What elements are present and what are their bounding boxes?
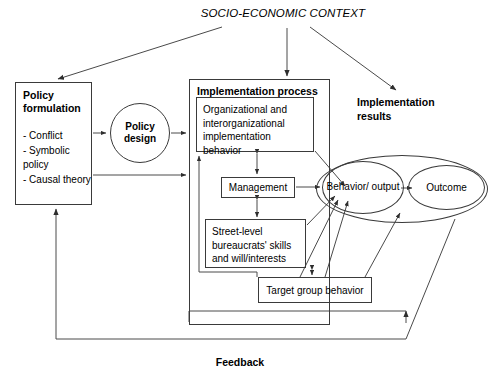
target-group-label: Target group behavior xyxy=(266,285,363,296)
target-group-behavior-box: Target group behavior xyxy=(258,277,372,303)
outcome-label: Outcome xyxy=(426,182,467,193)
behavior-output-ellipse: Behavior/ output xyxy=(322,161,404,214)
policy-formulation-item: - Causal theory xyxy=(23,173,85,188)
diagram-title: SOCIO-ECONOMIC CONTEXT xyxy=(168,6,398,20)
diagram-canvas: SOCIO-ECONOMIC CONTEXT Policy formulatio… xyxy=(0,0,491,385)
management-box: Management xyxy=(221,177,295,198)
policy-formulation-heading: Policy formulation xyxy=(23,89,85,115)
management-label: Management xyxy=(229,182,287,193)
implementation-results-label: Implementation results xyxy=(357,96,467,123)
behavior-output-label: Behavior/ output xyxy=(327,181,400,194)
policy-design-label: Policy design xyxy=(111,121,169,146)
feedback-label: Feedback xyxy=(180,356,300,369)
outcome-ellipse: Outcome xyxy=(408,165,485,210)
policy-formulation-items: - Conflict - Symbolic policy - Causal th… xyxy=(23,129,85,187)
street-level-label: Street-level bureaucrats' skills and wil… xyxy=(212,226,291,264)
policy-formulation-box: Policy formulation - Conflict - Symbolic… xyxy=(15,82,92,205)
organizational-behavior-label: Organizational and interorganizational i… xyxy=(203,104,287,156)
edge-results-to-feedback xyxy=(406,219,455,339)
policy-formulation-item: policy xyxy=(23,158,85,173)
implementation-process-heading: Implementation process xyxy=(197,85,329,97)
policy-formulation-item: - Symbolic xyxy=(23,144,85,159)
street-level-bureaucrats-box: Street-level bureaucrats' skills and wil… xyxy=(205,219,306,268)
policy-design-node: Policy design xyxy=(110,103,170,163)
edge-context-to-policy-formulation xyxy=(58,27,222,79)
policy-formulation-item: - Conflict xyxy=(23,129,85,144)
organizational-behavior-box: Organizational and interorganizational i… xyxy=(196,97,314,152)
